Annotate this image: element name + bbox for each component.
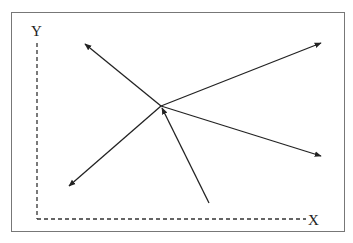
x-axis-label: X (308, 212, 319, 228)
arrow-upper-right (161, 43, 321, 106)
vector-diagram: Y X (0, 0, 353, 243)
y-axis-label: Y (31, 23, 42, 39)
arrow-lower-left (69, 106, 161, 186)
diagram-frame (12, 13, 345, 232)
arrow-upper-left (85, 44, 161, 106)
arrow-right (161, 106, 321, 156)
arrow-bottom-incoming (162, 108, 209, 203)
